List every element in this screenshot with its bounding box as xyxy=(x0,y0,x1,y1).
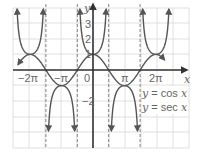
cos-sec-graph: y x 0 −2π −π π 2π 1 2 3 −2 y = cos x y =… xyxy=(0,0,199,154)
legend-sec: y = sec x xyxy=(141,101,188,114)
tick-label-y1: 1 xyxy=(85,48,91,60)
tick-label-neg-2pi: −2π xyxy=(18,72,39,84)
tick-label-y2: 2 xyxy=(85,33,91,45)
tick-label-2pi: 2π xyxy=(149,72,163,84)
legend: y = cos x y = sec x xyxy=(141,86,188,114)
x-axis-label: x xyxy=(184,73,191,86)
legend-cos: y = cos x xyxy=(141,87,188,100)
origin-label: 0 xyxy=(84,72,90,84)
tick-label-neg-pi: −π xyxy=(54,72,68,84)
tick-label-yneg2: −2 xyxy=(82,95,95,107)
tick-label-y3: 3 xyxy=(85,18,91,30)
y-axis-label: y xyxy=(83,2,91,15)
tick-label-pi: π xyxy=(121,72,129,84)
